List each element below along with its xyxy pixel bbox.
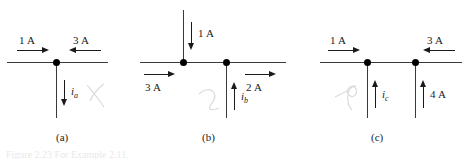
panel-caption-a: (a) [56,131,68,143]
right-vertical-wire-c [415,62,416,118]
panel-a: 1 A 3 A ia (a) [0,0,140,159]
arrow-2a-right-b [245,70,277,79]
arrow-1a-right-a [17,46,49,55]
label-top-current-b: 1 A [198,28,214,39]
panel-c: 1 A 3 A ic 4 A (c) [290,0,467,159]
arrow-ib-up-b [230,82,239,110]
label-ic-subscript: c [385,94,389,103]
node-a [53,59,60,66]
arrow-3a-left-c [423,46,455,55]
label-left-current-a: 1 A [19,35,35,46]
arrow-1a-right-c [328,46,360,55]
label-unknown-current-b: ib [241,91,248,105]
figure-caption: Figure 2.23 For Example 2.11. [6,149,129,159]
arrow-ic-up-c [371,80,380,108]
arrow-3a-right-b [144,70,176,79]
label-ib-subscript: b [244,96,248,105]
pencil-mark-c [334,82,366,112]
bottom-vertical-wire-b [226,62,227,118]
node-c-right [412,59,419,66]
node-b-right [223,59,230,66]
horizontal-wire-c [320,62,462,63]
label-unknown-current-a: ia [71,86,78,100]
vertical-wire-a [56,62,57,118]
label-right-current-b: 2 A [246,82,262,93]
arrow-ia-down-a [60,80,69,106]
label-left-current-b: 3 A [145,82,161,93]
label-right-current-c: 3 A [427,35,443,46]
label-left-current-c: 1 A [330,35,346,46]
node-c-left [364,59,371,66]
pencil-mark-b [197,86,227,112]
label-ia-subscript: a [74,91,78,100]
panel-caption-c: (c) [371,131,383,143]
arrow-1a-down-b [187,22,196,51]
circuit-figure: 1 A 3 A ia (a) 1 A [0,0,467,159]
top-vertical-wire-b [183,10,184,62]
panel-caption-b: (b) [202,131,215,143]
node-b-left [180,59,187,66]
label-right-current-a: 3 A [73,35,89,46]
horizontal-wire-b [140,62,286,63]
arrow-3a-left-a [69,46,101,55]
panel-b: 1 A 3 A 2 A ib (b) [140,0,290,159]
pencil-mark-a [84,80,110,110]
left-vertical-wire-c [367,62,368,118]
label-unknown-current-c: ic [382,89,389,103]
label-bottom-right-current-c: 4 A [430,89,446,100]
arrow-4a-up-c [419,80,428,108]
